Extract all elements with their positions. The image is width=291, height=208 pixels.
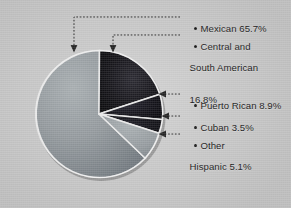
label-other-hispanic: Other Hispanic 5.1% xyxy=(183,130,252,194)
chart-canvas: Mexican 65.7% Central and South American… xyxy=(0,0,291,208)
leader-central xyxy=(113,35,180,47)
bullet-dot-central xyxy=(194,45,197,48)
label-other-line2: Hispanic 5.1% xyxy=(190,162,252,173)
leader-mexican xyxy=(74,17,180,47)
label-puerto-rican-text: Puerto Rican 8.9% xyxy=(200,100,281,111)
bullet-dot-mexican xyxy=(194,27,197,30)
bullet-dot-other xyxy=(194,144,197,147)
label-central-line1: Central and xyxy=(200,41,250,52)
arrowhead-mexican xyxy=(71,45,78,53)
bullet-dot-cuban xyxy=(194,126,197,129)
label-central-line2: South American xyxy=(190,63,258,74)
bullet-dot-puerto-rican xyxy=(194,104,197,107)
label-other-line1: Other xyxy=(200,140,224,151)
